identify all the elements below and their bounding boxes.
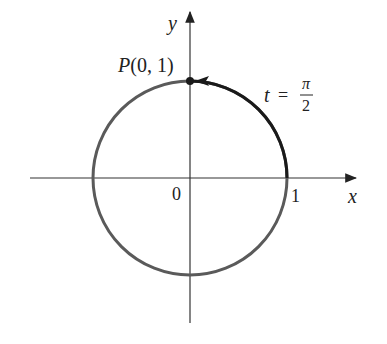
pi-numerator: π [302,75,311,92]
point-label: P(0, 1) [117,54,174,77]
unit-circle-diagram: y x 0 1 P(0, 1) t = π 2 [0,0,387,344]
origin-label: 0 [172,184,181,204]
denominator-two: 2 [302,97,310,114]
t-label: t [264,84,270,106]
y-axis-label: y [166,12,177,35]
tick-label-one: 1 [291,186,300,206]
x-axis-label: x [347,185,357,207]
arc-t-pi-over-2 [190,81,287,178]
point-P [186,77,194,85]
equals-sign: = [278,85,288,105]
